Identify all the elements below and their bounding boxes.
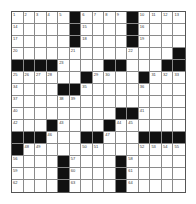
letter-cell[interactable]	[35, 24, 47, 36]
letter-cell[interactable]	[173, 36, 185, 48]
letter-cell[interactable]: 61	[127, 168, 139, 180]
letter-cell[interactable]	[139, 60, 151, 72]
letter-cell[interactable]	[127, 96, 139, 108]
letter-cell[interactable]	[162, 168, 174, 180]
letter-cell[interactable]	[93, 96, 105, 108]
letter-cell[interactable]: 29	[93, 72, 105, 84]
letter-cell[interactable]	[24, 48, 36, 60]
letter-cell[interactable]	[93, 84, 105, 96]
letter-cell[interactable]	[162, 96, 174, 108]
letter-cell[interactable]	[116, 96, 128, 108]
letter-cell[interactable]	[104, 84, 116, 96]
letter-cell[interactable]: 63	[70, 180, 82, 192]
letter-cell[interactable]	[104, 96, 116, 108]
letter-cell[interactable]	[150, 156, 162, 168]
letter-cell[interactable]: 13	[173, 12, 185, 24]
letter-cell[interactable]: 23	[58, 60, 70, 72]
letter-cell[interactable]	[93, 180, 105, 192]
letter-cell[interactable]	[47, 84, 59, 96]
letter-cell[interactable]: 8	[104, 12, 116, 24]
letter-cell[interactable]	[127, 72, 139, 84]
letter-cell[interactable]	[35, 36, 47, 48]
letter-cell[interactable]	[47, 36, 59, 48]
letter-cell[interactable]	[173, 156, 185, 168]
letter-cell[interactable]	[173, 96, 185, 108]
letter-cell[interactable]	[150, 120, 162, 132]
letter-cell[interactable]	[47, 180, 59, 192]
letter-cell[interactable]: 9	[116, 12, 128, 24]
letter-cell[interactable]: 12	[162, 12, 174, 24]
letter-cell[interactable]	[104, 24, 116, 36]
letter-cell[interactable]	[93, 48, 105, 60]
letter-cell[interactable]	[35, 108, 47, 120]
letter-cell[interactable]: 33	[173, 72, 185, 84]
letter-cell[interactable]: 42	[12, 120, 24, 132]
letter-cell[interactable]	[24, 84, 36, 96]
letter-cell[interactable]: 15	[81, 24, 93, 36]
letter-cell[interactable]: 50	[81, 144, 93, 156]
letter-cell[interactable]: 64	[127, 180, 139, 192]
letter-cell[interactable]: 43	[58, 120, 70, 132]
letter-cell[interactable]	[150, 36, 162, 48]
letter-cell[interactable]: 60	[70, 168, 82, 180]
letter-cell[interactable]: 21	[70, 48, 82, 60]
letter-cell[interactable]	[81, 96, 93, 108]
letter-cell[interactable]: 17	[12, 36, 24, 48]
letter-cell[interactable]	[70, 120, 82, 132]
letter-cell[interactable]	[35, 84, 47, 96]
letter-cell[interactable]	[104, 156, 116, 168]
letter-cell[interactable]: 41	[139, 108, 151, 120]
letter-cell[interactable]	[93, 24, 105, 36]
letter-cell[interactable]: 55	[173, 144, 185, 156]
letter-cell[interactable]	[24, 96, 36, 108]
letter-cell[interactable]	[81, 120, 93, 132]
letter-cell[interactable]	[173, 24, 185, 36]
letter-cell[interactable]	[162, 36, 174, 48]
letter-cell[interactable]	[162, 48, 174, 60]
letter-cell[interactable]: 48	[24, 144, 36, 156]
letter-cell[interactable]	[93, 168, 105, 180]
letter-cell[interactable]: 51	[93, 144, 105, 156]
letter-cell[interactable]: 49	[35, 144, 47, 156]
letter-cell[interactable]	[127, 60, 139, 72]
letter-cell[interactable]	[150, 180, 162, 192]
letter-cell[interactable]	[24, 36, 36, 48]
letter-cell[interactable]: 45	[127, 120, 139, 132]
letter-cell[interactable]	[81, 48, 93, 60]
letter-cell[interactable]	[58, 24, 70, 36]
letter-cell[interactable]: 10	[139, 12, 151, 24]
letter-cell[interactable]	[150, 96, 162, 108]
letter-cell[interactable]	[24, 156, 36, 168]
letter-cell[interactable]	[139, 96, 151, 108]
letter-cell[interactable]	[70, 60, 82, 72]
letter-cell[interactable]: 39	[70, 96, 82, 108]
letter-cell[interactable]	[162, 24, 174, 36]
letter-cell[interactable]	[24, 120, 36, 132]
letter-cell[interactable]	[35, 96, 47, 108]
letter-cell[interactable]: 56	[12, 156, 24, 168]
letter-cell[interactable]	[150, 168, 162, 180]
letter-cell[interactable]	[47, 48, 59, 60]
letter-cell[interactable]	[173, 108, 185, 120]
letter-cell[interactable]: 30	[104, 72, 116, 84]
letter-cell[interactable]: 16	[139, 24, 151, 36]
letter-cell[interactable]: 14	[12, 24, 24, 36]
letter-cell[interactable]	[162, 108, 174, 120]
letter-cell[interactable]	[173, 168, 185, 180]
letter-cell[interactable]	[81, 156, 93, 168]
letter-cell[interactable]	[35, 180, 47, 192]
letter-cell[interactable]	[93, 36, 105, 48]
letter-cell[interactable]	[139, 120, 151, 132]
letter-cell[interactable]	[93, 156, 105, 168]
letter-cell[interactable]	[139, 156, 151, 168]
letter-cell[interactable]: 57	[70, 156, 82, 168]
letter-cell[interactable]	[139, 168, 151, 180]
letter-cell[interactable]	[24, 108, 36, 120]
letter-cell[interactable]	[104, 36, 116, 48]
letter-cell[interactable]	[116, 144, 128, 156]
letter-cell[interactable]	[35, 120, 47, 132]
letter-cell[interactable]: 20	[12, 48, 24, 60]
letter-cell[interactable]	[81, 108, 93, 120]
letter-cell[interactable]	[104, 180, 116, 192]
letter-cell[interactable]: 35	[81, 84, 93, 96]
